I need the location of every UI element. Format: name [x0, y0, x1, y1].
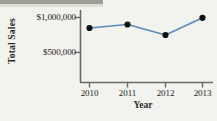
x-tick-label-2012: 2012 [148, 88, 183, 98]
x-tick-label-2013: 2013 [185, 88, 217, 98]
x-tick-label-2010: 2010 [72, 88, 107, 98]
data-point-2011 [124, 21, 130, 27]
data-point-2010 [86, 25, 92, 31]
data-point-2013 [199, 15, 205, 21]
data-point-2012 [162, 32, 168, 38]
x-tick-label-2011: 2011 [110, 88, 145, 98]
chart-screenshot: Total Sales $1,000,000 $500,000 2010 201… [0, 0, 217, 121]
y-tick-label-1000000: $1,000,000 [22, 12, 76, 22]
y-tick-label-500000: $500,000 [26, 47, 76, 57]
series-line-total-sales [90, 18, 203, 35]
x-axis-title: Year [76, 100, 210, 110]
